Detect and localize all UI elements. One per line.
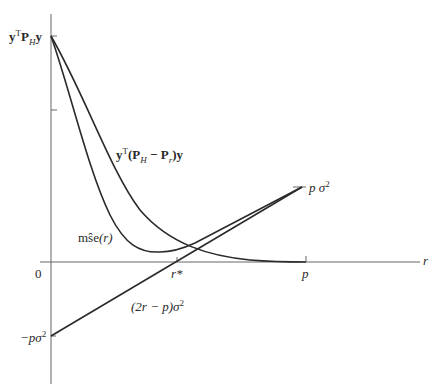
- psigma2-label: p σ2: [309, 181, 330, 194]
- projection-curve-label: yT(PH − Pr)y: [116, 148, 183, 161]
- diagram-canvas: [0, 0, 440, 390]
- mse-curve: [51, 36, 302, 252]
- rstar-label: r*: [171, 267, 183, 280]
- mse-curve-label: mŝe(r): [78, 231, 113, 244]
- neg-psigma2-label: −pσ2: [20, 331, 46, 344]
- y-top-label: yTPHy: [9, 30, 42, 43]
- origin-label: 0: [35, 267, 42, 280]
- r-axis-label: r: [423, 254, 428, 267]
- linear-line-label: (2r − p)σ2: [131, 300, 184, 313]
- p-label: p: [302, 267, 309, 280]
